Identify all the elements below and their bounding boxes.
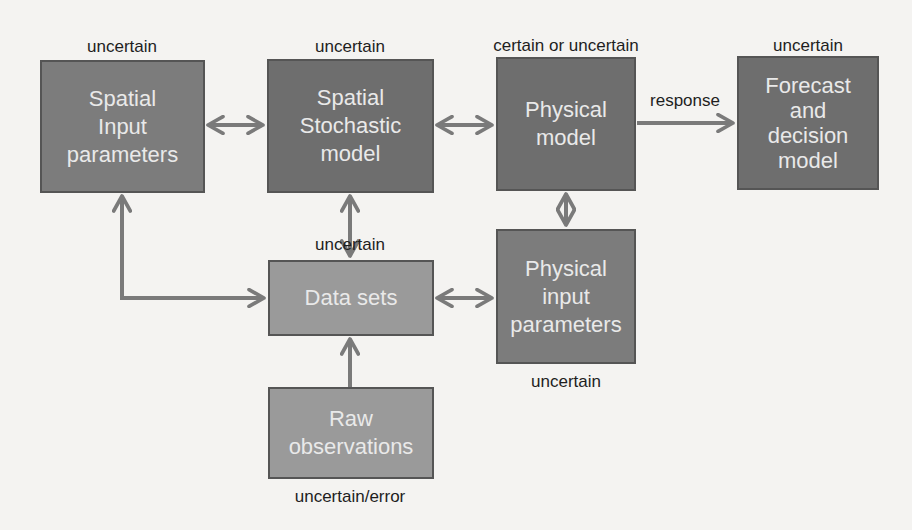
annotation-spatial-input-parameters: uncertain: [87, 37, 157, 57]
node-data-sets: Data sets: [268, 260, 434, 336]
node-physical-input-parameters: Physical input parameters: [496, 229, 636, 364]
uncertainty-flow-diagram: uncertain uncertain certain or uncertain…: [0, 0, 912, 530]
node-label: Raw observations: [289, 405, 414, 461]
annotation-raw-observations: uncertain/error: [295, 487, 406, 507]
edge-label-response: response: [650, 91, 720, 111]
annotation-forecast-decision-model: uncertain: [773, 36, 843, 56]
node-raw-observations: Raw observations: [268, 387, 434, 479]
node-forecast-decision-model: Forecast and decision model: [737, 56, 879, 190]
annotation-physical-input-parameters: uncertain: [531, 372, 601, 392]
annotation-spatial-stochastic-model: uncertain: [315, 37, 385, 57]
node-spatial-input-parameters: Spatial Input parameters: [40, 60, 205, 193]
node-label: Data sets: [305, 284, 398, 312]
node-label: Spatial Stochastic model: [300, 84, 402, 168]
node-label: Physical input parameters: [510, 255, 621, 339]
node-physical-model: Physical model: [496, 57, 636, 191]
arrow-data-sets-to-spatial-input: [122, 196, 264, 298]
node-label: Forecast and decision model: [765, 73, 851, 173]
annotation-data-sets: uncertain: [315, 235, 385, 255]
annotation-physical-model: certain or uncertain: [493, 36, 639, 56]
node-label: Physical model: [525, 96, 607, 152]
node-label: Spatial Input parameters: [67, 85, 178, 169]
node-spatial-stochastic-model: Spatial Stochastic model: [267, 59, 434, 193]
